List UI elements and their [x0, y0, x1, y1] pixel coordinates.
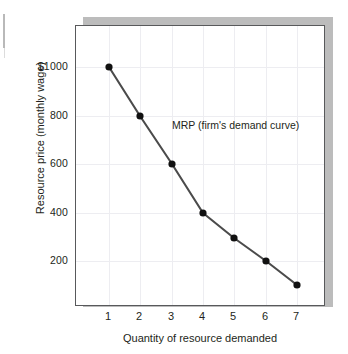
x-axis-tick-label: 1: [98, 310, 118, 322]
series-annotation-mrp: MRP (firm's demand curve): [172, 119, 299, 131]
page-edge-artifact: [3, 14, 5, 48]
x-axis-tick-label: 7: [286, 310, 306, 322]
x-axis-tick-label: 3: [161, 310, 181, 322]
x-axis-tick-label: 6: [255, 310, 275, 322]
data-point-1: [105, 63, 112, 70]
x-axis-title: Quantity of resource demanded: [75, 332, 325, 344]
data-point-5: [230, 234, 237, 241]
x-axis-tick-label: 5: [223, 310, 243, 322]
y-axis-tick-label: 200: [5, 254, 68, 266]
y-axis-title: Resource price (monthly wage): [34, 38, 46, 238]
x-axis-tick-label: 4: [192, 310, 212, 322]
page-edge-artifact-secondary: [4, 48, 5, 58]
data-point-7: [293, 281, 300, 288]
data-point-4: [199, 209, 206, 216]
mrp-line: [109, 67, 297, 285]
data-point-3: [168, 160, 175, 167]
data-series-mrp: [76, 26, 326, 307]
plot-area: [75, 25, 325, 306]
data-point-2: [136, 112, 143, 119]
figure: MRP (firm's demand curve) $1000 800 600 …: [0, 0, 348, 354]
x-axis-tick-label: 2: [129, 310, 149, 322]
data-point-6: [262, 257, 269, 264]
